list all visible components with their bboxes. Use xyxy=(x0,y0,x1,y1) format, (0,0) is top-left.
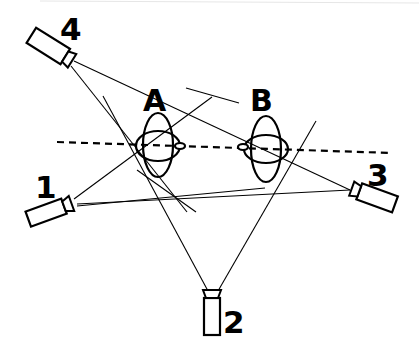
camera-1-label: 1 xyxy=(35,169,57,205)
sight-line-2-right xyxy=(218,121,316,291)
camera-lens-icon xyxy=(203,290,221,298)
camera-4-label: 4 xyxy=(60,11,82,47)
object-b-label: B xyxy=(250,83,273,118)
camera-2 xyxy=(203,290,221,335)
sight-line-short-top xyxy=(186,88,239,103)
page-edge xyxy=(40,1,419,3)
camera-2-label: 2 xyxy=(223,304,245,340)
camera-3-label: 3 xyxy=(367,157,389,193)
diagram-canvas: 4 1 3 2 A B xyxy=(0,0,419,346)
sight-line-1-short xyxy=(77,188,265,206)
sight-line-4-to-3 xyxy=(74,61,350,190)
dashed-axis-line xyxy=(57,142,392,153)
object-a-label: A xyxy=(143,83,167,118)
sight-lines xyxy=(71,61,350,291)
camera-diagram: 4 1 3 2 A B xyxy=(0,0,419,346)
camera-body xyxy=(204,298,220,335)
sight-line-a-lower xyxy=(137,170,196,212)
